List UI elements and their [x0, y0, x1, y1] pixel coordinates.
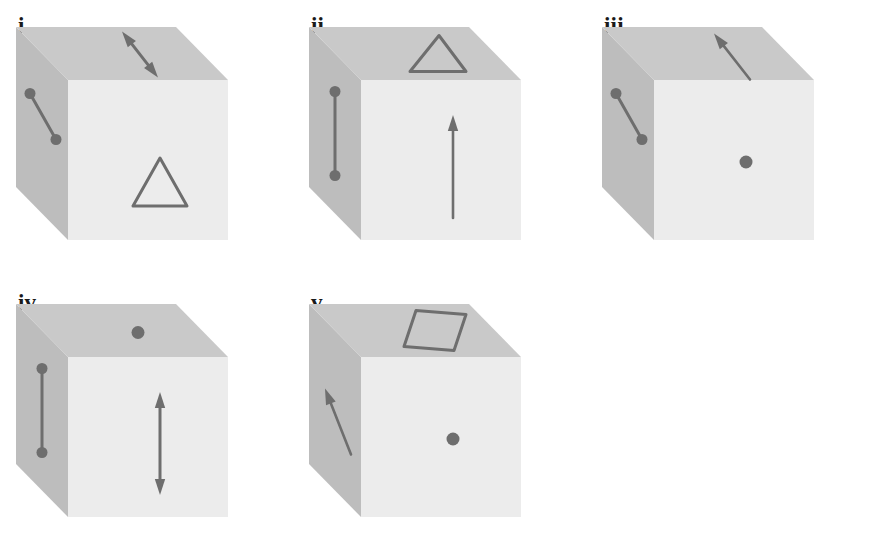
marking-front-dot-marker — [447, 433, 460, 446]
box-drawing-i — [0, 0, 290, 270]
panel-ii: ii. — [293, 0, 583, 270]
box-front-face — [654, 80, 814, 240]
panel-i: i. — [0, 0, 290, 270]
panel-iv: iv. — [0, 277, 290, 547]
panel-v: v. — [293, 277, 583, 547]
box-drawing-ii — [293, 0, 583, 270]
figure-root: i.ii.iii.iv.v. — [0, 0, 881, 547]
box-front-face — [68, 357, 228, 517]
marking-top-dot-marker — [132, 326, 145, 339]
box-drawing-iv — [0, 277, 290, 547]
box-drawing-v — [293, 277, 583, 547]
panel-iii: iii. — [586, 0, 876, 270]
box-front-face — [361, 357, 521, 517]
box-front-face — [361, 80, 521, 240]
marking-front-dot-marker — [740, 156, 753, 169]
box-drawing-iii — [586, 0, 876, 270]
box-front-face — [68, 80, 228, 240]
